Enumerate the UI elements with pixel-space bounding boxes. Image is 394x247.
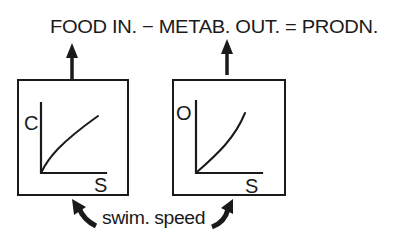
graph-axes bbox=[41, 103, 106, 173]
energy-budget-equation: FOOD IN. − METAB. OUT. = PRODN. bbox=[50, 16, 378, 37]
curved-arrow-icon bbox=[212, 199, 233, 227]
consumption-graph-panel: C S bbox=[18, 80, 128, 196]
swim-speed-label: swim. speed bbox=[102, 208, 205, 228]
curved-arrow-icon bbox=[72, 199, 96, 226]
y-axis-label: O bbox=[176, 102, 192, 124]
graph-frame bbox=[18, 80, 128, 195]
oxygen-curve bbox=[196, 113, 245, 173]
arrow-up-icon bbox=[221, 39, 233, 75]
arrow-up-icon bbox=[66, 43, 78, 79]
graph-axes bbox=[196, 101, 262, 173]
consumption-curve bbox=[41, 116, 98, 173]
energy-budget-diagram: FOOD IN. − METAB. OUT. = PRODN. C S O S … bbox=[0, 0, 394, 247]
oxygen-graph-panel: O S bbox=[173, 80, 285, 197]
x-axis-label: S bbox=[94, 174, 107, 196]
graph-frame bbox=[173, 80, 285, 195]
x-axis-label: S bbox=[245, 175, 258, 197]
y-axis-label: C bbox=[24, 112, 38, 134]
